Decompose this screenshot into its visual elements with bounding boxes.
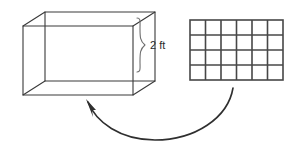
height-label: 2 ft [150, 39, 165, 51]
prism-edge-top-left [23, 12, 45, 26]
arrow-curve-path [88, 88, 233, 140]
rectangular-prism [23, 12, 155, 95]
prism-edge-top-right [133, 12, 155, 26]
geometry-figure: 2 ft [0, 0, 303, 147]
height-dimension: 2 ft [137, 18, 165, 72]
prism-depth-edges [23, 12, 155, 95]
prism-edge-bottom-right [133, 81, 155, 95]
curved-arrow [86, 88, 233, 140]
figure-canvas: 2 ft [0, 0, 303, 147]
prism-edge-bottom-left [23, 81, 45, 95]
unit-square-grid [190, 20, 283, 80]
curly-brace-icon [137, 18, 145, 72]
